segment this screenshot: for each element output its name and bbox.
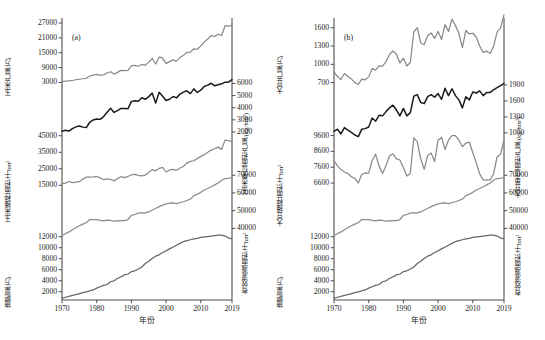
axis-tick-label: 4000 (21, 277, 57, 285)
axis-tick-label: 35000 (21, 148, 57, 156)
panel-b: (b) 大豆产量/万t 大豆播种面积/千hm² 施肥量/万t 大豆单位面积产量/… (272, 0, 544, 340)
axis-tick-label: 60000 (509, 189, 543, 197)
panel-b-xtick: 2010 (460, 305, 486, 313)
axis-tick-label: 1900 (509, 81, 543, 89)
axis-tick-label: 50000 (237, 207, 271, 215)
axis-tick-label: 1600 (509, 97, 543, 105)
axis-tick-label: 15000 (21, 181, 57, 189)
axis-tick-label: 3000 (21, 78, 57, 86)
axis-tick-label: 6000 (237, 79, 271, 87)
axis-tick-label: 6000 (293, 266, 329, 274)
panel-a-xtick: 2010 (188, 305, 214, 313)
figure-root: (a) 玉米产量/万t 玉米播种面积/千hm² 施肥量/万t 玉米单位面积产量/… (0, 0, 545, 340)
panel-b-xtick: 2019 (491, 305, 517, 313)
axis-tick-label: 25000 (21, 165, 57, 173)
axis-tick-label: 1000 (293, 60, 329, 68)
panel-a-xtick: 1980 (84, 305, 110, 313)
panel-b-xtick: 1990 (390, 305, 416, 313)
axis-tick-label: 21000 (21, 34, 57, 42)
axis-tick-label: 2000 (293, 288, 329, 296)
axis-tick-label: 10000 (293, 244, 329, 252)
axis-tick-label: 9600 (293, 132, 329, 140)
axis-tick-label: 8600 (293, 147, 329, 155)
axis-tick-label: 1000 (509, 129, 543, 137)
axis-tick-label: 12000 (21, 233, 57, 241)
panel-a-xtick: 2019 (219, 305, 245, 313)
axis-tick-label: 1300 (293, 42, 329, 50)
panel-a-xtick: 1970 (49, 305, 75, 313)
axis-tick-label: 700 (293, 79, 329, 87)
axis-tick-label: 70000 (509, 171, 543, 179)
axis-tick-label: 1300 (509, 113, 543, 121)
panel-b-xaxis-title: 年份 (334, 317, 504, 325)
axis-tick-label: 27000 (21, 19, 57, 27)
axis-tick-label: 1600 (293, 24, 329, 32)
axis-tick-label: 45000 (21, 132, 57, 140)
axis-tick-label: 2000 (21, 288, 57, 296)
axis-tick-label: 15000 (21, 49, 57, 57)
axis-tick-label: 4000 (293, 277, 329, 285)
axis-tick-label: 40000 (509, 224, 543, 232)
panel-a: (a) 玉米产量/万t 玉米播种面积/千hm² 施肥量/万t 玉米单位面积产量/… (0, 0, 272, 340)
panel-b-xtick: 2000 (425, 305, 451, 313)
panel-a-xtick: 2000 (153, 305, 179, 313)
axis-tick-label: 50000 (509, 207, 543, 215)
axis-tick-label: 6600 (293, 179, 329, 187)
axis-tick-label: 70000 (237, 171, 271, 179)
panel-a-xtick: 1990 (118, 305, 144, 313)
axis-tick-label: 60000 (237, 189, 271, 197)
axis-tick-label: 2000 (237, 128, 271, 136)
panel-b-xtick: 1970 (321, 305, 347, 313)
axis-tick-label: 5000 (237, 92, 271, 100)
panel-a-xaxis-title: 年份 (62, 317, 232, 325)
axis-tick-label: 40000 (237, 224, 271, 232)
axis-tick-label: 6000 (21, 266, 57, 274)
axis-tick-label: 10000 (21, 244, 57, 252)
axis-tick-label: 4000 (237, 104, 271, 112)
panel-b-xtick: 1980 (356, 305, 382, 313)
axis-tick-label: 8000 (293, 255, 329, 263)
axis-tick-label: 7600 (293, 163, 329, 171)
axis-tick-label: 12000 (293, 233, 329, 241)
axis-tick-label: 8000 (21, 255, 57, 263)
axis-tick-label: 9000 (21, 64, 57, 72)
axis-tick-label: 3000 (237, 116, 271, 124)
